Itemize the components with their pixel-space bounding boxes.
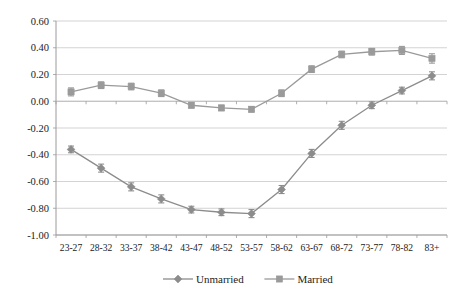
data-point-marker: [98, 82, 104, 88]
data-point-marker: [67, 146, 75, 154]
series-line: [71, 76, 432, 214]
x-axis-tick-label: 23-27: [60, 242, 83, 253]
x-axis-tick-label: 48-52: [210, 242, 233, 253]
data-point-marker: [398, 87, 406, 95]
x-axis-tick-label: 73-77: [361, 242, 384, 253]
data-point-marker: [368, 101, 376, 109]
data-point-marker: [339, 51, 345, 57]
x-axis-tick-label: 78-82: [391, 242, 414, 253]
data-point-marker: [174, 275, 182, 283]
series-line: [71, 50, 432, 109]
y-axis-tick-label: 0.40: [31, 42, 49, 53]
data-point-marker: [128, 83, 134, 89]
legend-label: Married: [297, 273, 333, 285]
data-point-marker: [399, 47, 405, 53]
x-axis-tick-label: 63-67: [300, 242, 323, 253]
data-point-marker: [278, 90, 284, 96]
data-point-marker: [218, 208, 226, 216]
data-point-marker: [127, 183, 135, 191]
y-axis-tick-label: -1.00: [27, 230, 49, 241]
gridlines: [56, 21, 447, 235]
data-point-marker: [428, 72, 436, 80]
legend: UnmarriedMarried: [163, 273, 333, 285]
data-point-marker: [158, 90, 164, 96]
x-axis-tick-label: 58-62: [270, 242, 293, 253]
legend-item[interactable]: Unmarried: [163, 273, 244, 285]
x-axis-tick-label: 68-72: [331, 242, 354, 253]
legend-label: Unmarried: [196, 273, 244, 285]
x-axis-tick-label: 33-37: [120, 242, 143, 253]
series-married: [68, 46, 435, 112]
data-point-marker: [369, 49, 375, 55]
x-axis-tick-label: 43-47: [180, 242, 203, 253]
data-point-marker: [309, 66, 315, 72]
x-axis-tick-label: 83+: [424, 242, 439, 253]
y-axis-tick-label: -0.60: [27, 176, 49, 187]
data-point-marker: [276, 276, 282, 282]
y-axis-tick-label: 0.00: [31, 96, 49, 107]
legend-item[interactable]: Married: [264, 273, 333, 285]
y-axis-tick-label: -0.20: [27, 123, 49, 134]
data-point-marker: [248, 106, 254, 112]
data-point-marker: [218, 105, 224, 111]
x-axis-tick-label: 38-42: [150, 242, 173, 253]
x-axis-tick-label: 53-57: [240, 242, 263, 253]
x-axis-tick-label: 28-32: [90, 242, 113, 253]
data-point-marker: [97, 164, 105, 172]
data-point-marker: [429, 55, 435, 61]
y-axis-tick-label: -0.80: [27, 203, 49, 214]
data-point-marker: [187, 206, 195, 214]
data-point-marker: [188, 102, 194, 108]
data-point-marker: [68, 89, 74, 95]
series-unmarried: [67, 72, 436, 218]
line-chart: 0.600.400.200.00-0.20-0.40-0.60-0.80-1.0…: [0, 0, 461, 299]
data-point-marker: [157, 195, 165, 203]
chart-figure: 0.600.400.200.00-0.20-0.40-0.60-0.80-1.0…: [0, 0, 461, 299]
y-axis-tick-label: -0.40: [27, 149, 49, 160]
y-axis-tick-label: 0.20: [31, 69, 49, 80]
y-axis-tick-label: 0.60: [31, 16, 49, 27]
